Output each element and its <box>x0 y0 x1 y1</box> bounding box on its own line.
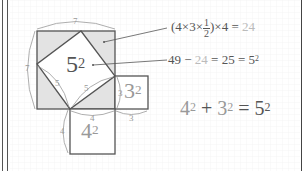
label-bottom-3: 3 <box>129 113 134 123</box>
equation-triangle-area: (4×3×12)×4 = 24 <box>171 14 255 40</box>
label-hyp-a: 5 <box>55 78 60 88</box>
label-side-4: 4 <box>60 126 65 136</box>
label-square-5: 52 <box>66 52 85 76</box>
label-left-7: 7 <box>25 63 30 73</box>
fraction-half: 12 <box>203 18 210 39</box>
equation-square-area: 49 − 24 = 25 = 52 <box>168 52 259 68</box>
label-side-3: 3 <box>118 88 123 98</box>
label-hyp-b: 5 <box>84 83 89 93</box>
label-square-3: 32 <box>124 80 142 102</box>
label-square-4: 42 <box>81 120 99 142</box>
pythagorean-equation: 42 + 32 = 52 <box>180 97 271 119</box>
label-top-7: 7 <box>73 16 78 26</box>
pythagoras-diagram <box>0 0 303 171</box>
